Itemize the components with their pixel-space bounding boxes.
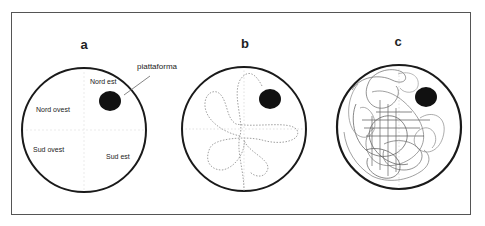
panel-a: a piattaforma Nord est Nord ovest Sud ov… (22, 37, 178, 192)
panel-c: c (337, 34, 461, 189)
water-maze-figure: a piattaforma Nord est Nord ovest Sud ov… (0, 0, 485, 226)
figure-canvas: a piattaforma Nord est Nord ovest Sud ov… (0, 0, 485, 226)
swim-paths-dense (344, 70, 444, 181)
platform (415, 87, 437, 107)
platform (99, 91, 121, 111)
quadrant-label-sw: Sud ovest (33, 146, 64, 153)
quadrant-label-ne: Nord est (90, 78, 117, 85)
panel-a-label: a (80, 37, 88, 52)
quadrant-label-se: Sud est (106, 153, 130, 160)
quadrant-label-nw: Nord ovest (36, 106, 70, 113)
platform (259, 89, 281, 109)
panel-c-label: c (394, 34, 401, 49)
panel-b: b (182, 36, 306, 191)
platform-label: piattaforma (137, 62, 178, 71)
panel-b-label: b (241, 36, 249, 51)
swim-path (205, 73, 298, 191)
